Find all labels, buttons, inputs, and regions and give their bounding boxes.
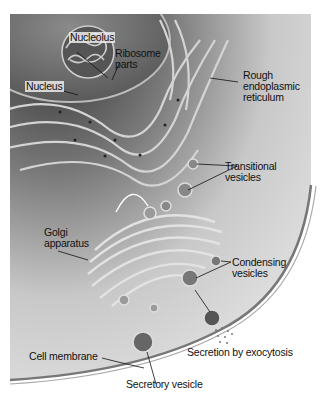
cell-diagram bbox=[0, 0, 323, 402]
label-rough-er: Rough endoplasmic reticulum bbox=[243, 70, 300, 103]
label-secretory-vesicle: Secretory vesicle bbox=[126, 379, 203, 390]
label-secretion-by-exocytosis: Secretion by exocytosis bbox=[187, 347, 293, 358]
secretory-vesicle-shape bbox=[133, 332, 153, 352]
label-nucleolus: Nucleolus bbox=[69, 32, 115, 43]
label-cell-membrane: Cell membrane bbox=[29, 351, 98, 362]
label-transitional-vesicles: Transitional vesicles bbox=[225, 161, 276, 183]
label-condensing-vesicles: Condensing vesicles bbox=[232, 257, 286, 279]
label-ribosome-parts: Ribosome parts bbox=[115, 48, 161, 70]
label-nucleus: Nucleus bbox=[25, 81, 64, 92]
label-golgi-apparatus: Golgi apparatus bbox=[44, 227, 89, 249]
